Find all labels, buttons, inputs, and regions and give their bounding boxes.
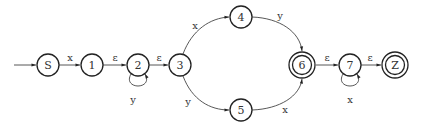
edge-label-6-7: ε — [324, 52, 329, 63]
state-3: 3 — [169, 54, 191, 76]
state-Z-accepting: Z — [382, 52, 408, 78]
state-label: 3 — [177, 59, 184, 72]
edge-3-4 — [183, 17, 229, 54]
state-label: 5 — [238, 104, 245, 117]
automaton-diagram: x ε y ε x y y x ε x ε S 1 2 3 4 — [0, 0, 426, 130]
state-label: 1 — [89, 59, 96, 72]
edge-label-3-5: y — [184, 96, 191, 107]
edge-4-6 — [252, 17, 302, 51]
state-label: 7 — [347, 59, 354, 72]
state-6-accepting: 6 — [289, 52, 315, 78]
state-label: S — [44, 59, 52, 72]
state-1: 1 — [81, 54, 103, 76]
edge-label-5-6: x — [282, 104, 288, 115]
state-label: 4 — [238, 11, 245, 24]
edge-label-1-2: ε — [112, 52, 117, 63]
edge-label-7-7: x — [347, 94, 353, 105]
edge-label-4-6: y — [276, 10, 283, 21]
edge-label-2-2: y — [129, 94, 136, 105]
edge-label-3-4: x — [192, 20, 198, 31]
state-label: Z — [391, 59, 399, 72]
edge-label-7-Z: ε — [367, 52, 372, 63]
state-5: 5 — [230, 99, 252, 121]
state-7: 7 — [339, 54, 361, 76]
edge-label-2-3: ε — [156, 52, 161, 63]
edge-label-S-1: x — [67, 52, 73, 63]
edge-5-6 — [252, 79, 302, 110]
state-4: 4 — [230, 6, 252, 28]
state-label: 2 — [135, 59, 142, 72]
state-label: 6 — [299, 59, 306, 72]
state-S: S — [37, 54, 59, 76]
state-2: 2 — [127, 54, 149, 76]
